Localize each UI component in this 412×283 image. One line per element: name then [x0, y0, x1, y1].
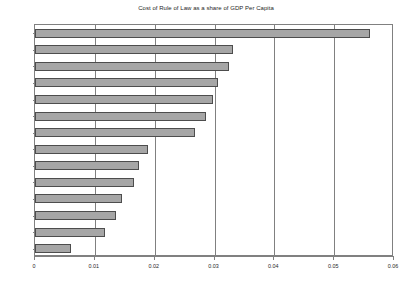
- y-tick-mark: [33, 232, 36, 233]
- y-tick-mark: [33, 133, 36, 134]
- y-tick-mark: [33, 216, 36, 217]
- bar: [35, 145, 148, 154]
- x-tick-mark: [154, 256, 155, 260]
- bar: [35, 244, 71, 253]
- y-tick-mark: [33, 33, 36, 34]
- x-tick-label: 0: [19, 263, 49, 269]
- x-tick-label: 0.06: [378, 263, 408, 269]
- x-tick-label: 0.05: [318, 263, 348, 269]
- bar: [35, 178, 134, 187]
- bar-row: URY: [35, 191, 392, 208]
- x-tick-mark: [94, 256, 95, 260]
- y-tick-mark: [33, 182, 36, 183]
- bar-row: VEN: [35, 91, 392, 108]
- x-tick-label: 0.03: [199, 263, 229, 269]
- bar: [35, 112, 206, 121]
- bar-row: BRA: [35, 224, 392, 241]
- bar-row: ARG: [35, 141, 392, 158]
- bar-row: CHL: [35, 207, 392, 224]
- bar: [35, 45, 233, 54]
- bar: [35, 128, 195, 137]
- y-tick-mark: [33, 166, 36, 167]
- bar-row: NIC: [35, 58, 392, 75]
- y-tick-mark: [33, 66, 36, 67]
- bar-row: PAN: [35, 108, 392, 125]
- bar: [35, 29, 370, 38]
- bar-row: DOM: [35, 174, 392, 191]
- bar-row: JAM: [35, 25, 392, 42]
- bar: [35, 161, 139, 170]
- x-tick-mark: [273, 256, 274, 260]
- y-tick-mark: [33, 199, 36, 200]
- bar: [35, 62, 229, 71]
- x-tick-label: 0.04: [258, 263, 288, 269]
- y-tick-mark: [33, 149, 36, 150]
- bar-row: TTO: [35, 75, 392, 92]
- chart-title: Cost of Rule of Law as a share of GDP Pe…: [0, 5, 412, 11]
- x-tick-mark: [393, 256, 394, 260]
- bar: [35, 211, 116, 220]
- bar: [35, 228, 105, 237]
- bar-row: MEX: [35, 240, 392, 257]
- bar: [35, 95, 213, 104]
- bar-row: CRI: [35, 158, 392, 175]
- bar-row: BOL: [35, 42, 392, 59]
- x-tick-label: 0.01: [79, 263, 109, 269]
- y-tick-mark: [33, 100, 36, 101]
- bar: [35, 194, 122, 203]
- x-tick-mark: [333, 256, 334, 260]
- plot-area: JAMBOLNICTTOVENPANSLVARGCRIDOMURYCHLBRAM…: [34, 24, 393, 256]
- bar-row: SLV: [35, 124, 392, 141]
- x-tick-label: 0.02: [139, 263, 169, 269]
- x-tick-mark: [34, 256, 35, 260]
- bar: [35, 78, 218, 87]
- x-tick-mark: [214, 256, 215, 260]
- bar-chart: Cost of Rule of Law as a share of GDP Pe…: [0, 0, 412, 283]
- y-tick-mark: [33, 116, 36, 117]
- y-tick-mark: [33, 83, 36, 84]
- y-tick-mark: [33, 50, 36, 51]
- y-tick-mark: [33, 249, 36, 250]
